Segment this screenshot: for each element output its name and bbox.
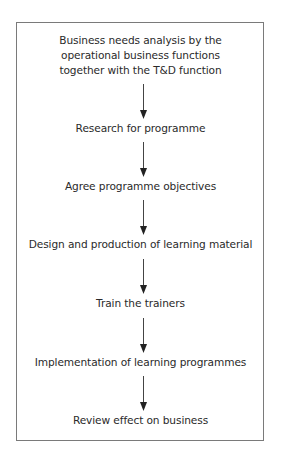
step-design-and-production: Design and production of learning materi… [0,237,281,252]
step-agree-programme-objectives: Agree programme objectives [0,179,281,194]
step-business-needs-analysis: Business needs analysis by the operation… [0,33,281,78]
arrow-down-icon [139,200,148,236]
step-research-for-programme: Research for programme [0,121,281,136]
arrow-down-icon [139,84,148,120]
step-label-line: operational business functions [0,48,281,63]
step-label-line: Business needs analysis by the [0,33,281,48]
arrow-down-icon [139,259,148,295]
step-review-effect-on-business: Review effect on business [0,413,281,428]
step-train-the-trainers: Train the trainers [0,296,281,311]
arrow-down-icon [139,318,148,354]
arrow-down-icon [139,376,148,412]
step-implementation: Implementation of learning programmes [0,355,281,370]
arrow-down-icon [139,142,148,178]
step-label-line: together with the T&D function [0,63,281,78]
